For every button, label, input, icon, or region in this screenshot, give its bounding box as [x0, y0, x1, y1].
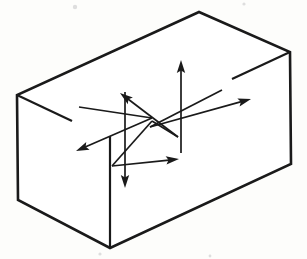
- scan-speck: [209, 255, 212, 258]
- figure-root: [0, 0, 307, 259]
- scan-speck: [73, 5, 77, 9]
- scan-speck: [242, 2, 245, 5]
- box-force-diagram: [0, 0, 307, 259]
- scan-speck: [98, 252, 101, 255]
